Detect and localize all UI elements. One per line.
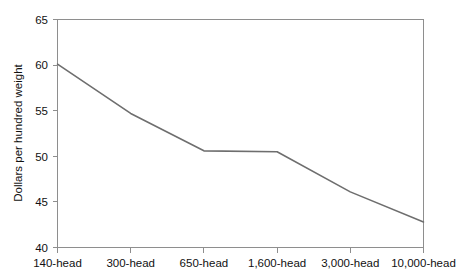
x-tick-label-10000-head: 10,000-head [391,257,456,269]
x-tick-label-140-head: 140-head [33,257,82,269]
y-tick-label-65: 65 [35,14,48,26]
x-tick-label-300-head: 300-head [106,257,155,269]
y-tick-label-45: 45 [35,196,48,208]
y-tick-label-60: 60 [35,59,48,71]
chart-background [0,0,464,277]
x-tick-label-1600-head: 1,600-head [248,257,306,269]
chart-canvas: 65 60 55 50 45 40 140-head 300-head 650-… [0,0,464,277]
line-chart: 65 60 55 50 45 40 140-head 300-head 650-… [0,0,464,277]
x-tick-label-650-head: 650-head [180,257,229,269]
y-axis-title: Dollars per hundred weight [12,63,24,201]
y-tick-label-40: 40 [35,242,48,254]
x-tick-label-3000-head: 3,000-head [321,257,379,269]
y-tick-label-55: 55 [35,105,48,117]
y-tick-label-50: 50 [35,151,48,163]
